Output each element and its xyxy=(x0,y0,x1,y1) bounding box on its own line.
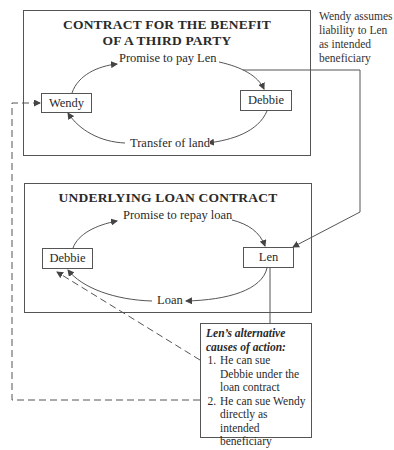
note-line-1: Wendy assumes xyxy=(319,9,394,23)
debbie-node-top: Debbie xyxy=(240,90,292,111)
promise-to-pay-len-label: Promise to pay Len xyxy=(119,51,217,66)
promise-to-repay-loan-label: Promise to repay loan xyxy=(123,208,232,223)
assumption-note: Wendy assumes liability to Len as intend… xyxy=(319,9,394,65)
causes-list: He can sue Debbie under the loan contrac… xyxy=(206,354,306,449)
causes-heading-line-1: Len’s alternative xyxy=(206,327,306,341)
cause-item-2: He can sue Wendy directly as intended be… xyxy=(219,395,306,449)
causes-of-action-box: Len’s alternative causes of action: He c… xyxy=(200,323,312,438)
note-line-3: as intended xyxy=(319,37,394,51)
cause-item-1: He can sue Debbie under the loan contrac… xyxy=(219,354,306,395)
note-line-4: beneficiary xyxy=(319,51,394,65)
title-line-2: OF A THIRD PARTY xyxy=(23,33,311,49)
loan-contract-title: UNDERLYING LOAN CONTRACT xyxy=(24,190,312,206)
transfer-of-land-label: Transfer of land xyxy=(130,136,210,151)
len-node: Len xyxy=(243,247,294,268)
causes-heading-line-2: causes of action: xyxy=(206,341,306,355)
third-party-contract-title: CONTRACT FOR THE BENEFIT OF A THIRD PART… xyxy=(23,17,311,49)
wendy-node: Wendy xyxy=(41,93,92,113)
note-line-2: liability to Len xyxy=(319,23,394,37)
debbie-node-bottom: Debbie xyxy=(42,248,93,269)
loan-label: Loan xyxy=(157,293,183,308)
title-line-1: CONTRACT FOR THE BENEFIT xyxy=(23,17,311,33)
